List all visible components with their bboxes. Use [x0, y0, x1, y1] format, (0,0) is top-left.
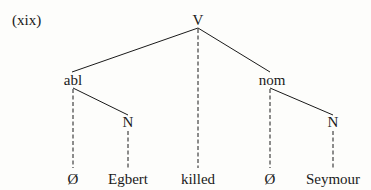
leaf-null-2: Ø [265, 171, 276, 187]
node-abl: abl [64, 72, 82, 88]
tree-diagram: (xix) V abl N nom N Ø Egbert killed Ø Se… [0, 0, 371, 190]
edge-v-abl [72, 28, 198, 72]
example-label: (xix) [12, 12, 41, 29]
node-n-left: N [123, 114, 134, 130]
leaf-egbert: Egbert [108, 171, 149, 187]
edge-nom-n [270, 88, 333, 115]
edge-abl-n [73, 88, 128, 115]
node-n-right: N [328, 114, 339, 130]
tree-svg: (xix) V abl N nom N Ø Egbert killed Ø Se… [0, 0, 371, 190]
node-nom: nom [259, 72, 286, 88]
leaf-seymour: Seymour [306, 171, 360, 187]
leaf-null-1: Ø [68, 171, 79, 187]
edge-v-nom [198, 28, 270, 72]
leaf-killed: killed [181, 171, 216, 187]
node-v: V [193, 12, 204, 28]
